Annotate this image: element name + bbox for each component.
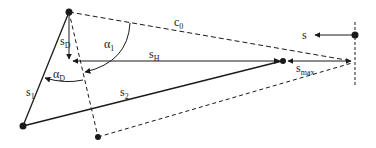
top-point <box>66 9 73 16</box>
vertical-dashed-line <box>69 12 98 137</box>
alpha1-label: α1 <box>104 37 114 53</box>
s-label: s <box>302 28 307 42</box>
bottom-dashed-point <box>95 134 101 140</box>
c0-dashed-line <box>69 12 352 61</box>
sH-label: sH <box>149 47 160 63</box>
s2-label: s2 <box>120 85 129 101</box>
s1-line <box>23 12 69 126</box>
alphaD-label: αD <box>53 67 65 83</box>
smax-label: smax <box>296 61 314 77</box>
right-point <box>352 32 359 39</box>
s1-label: s1 <box>26 85 35 101</box>
bottom-left-point <box>20 123 27 130</box>
middle-node <box>280 58 286 64</box>
geometry-diagram: c0 s sD α1 sH smax αD s1 s2 <box>0 0 376 148</box>
node-arrowhead-left <box>274 58 281 64</box>
c0-label: c0 <box>174 15 183 31</box>
s2-line <box>23 61 282 126</box>
